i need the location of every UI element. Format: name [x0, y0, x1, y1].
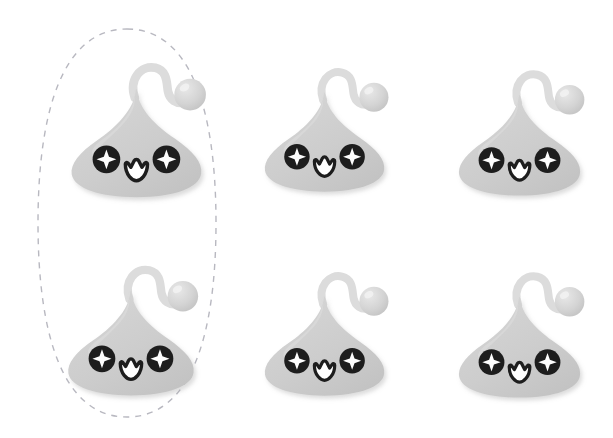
antenna-group [516, 276, 584, 316]
antenna-ball [555, 287, 584, 316]
mouth [509, 160, 530, 180]
mouth [509, 362, 530, 382]
mouth [120, 359, 141, 380]
right-eye [153, 146, 181, 174]
right-eye [339, 348, 364, 373]
left-eye [284, 144, 309, 169]
blob-character-4[interactable] [55, 255, 210, 400]
antenna-ball [555, 85, 584, 114]
antenna-group [322, 72, 389, 112]
antenna-ball [174, 79, 206, 111]
left-eye [479, 349, 505, 375]
antenna-ball [168, 281, 199, 312]
blob-character-6[interactable] [446, 262, 596, 402]
left-eye [284, 348, 309, 373]
antenna-group [516, 74, 584, 114]
right-eye [535, 349, 561, 375]
mouth [125, 159, 147, 180]
right-eye [147, 345, 174, 372]
antenna-ball [359, 287, 388, 316]
character-grid-canvas [0, 0, 613, 438]
mouth [314, 157, 334, 177]
blob-character-3[interactable] [446, 60, 596, 200]
antenna-group [133, 67, 206, 110]
antenna-group [322, 276, 389, 316]
right-eye [535, 147, 561, 173]
blob-character-1[interactable] [58, 52, 218, 202]
right-eye [339, 144, 364, 169]
left-eye [479, 147, 505, 173]
left-eye [93, 146, 121, 174]
antenna-ball [359, 83, 388, 112]
mouth [314, 361, 334, 381]
antenna-group [128, 270, 198, 312]
blob-character-2[interactable] [252, 58, 400, 196]
left-eye [89, 345, 116, 372]
blob-character-5[interactable] [252, 262, 400, 400]
